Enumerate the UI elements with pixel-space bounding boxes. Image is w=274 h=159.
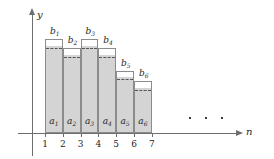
series-bar-diagram: y n a1b1a2b2a3b3a4b4a5b5a6b6 1234567 [0,0,274,159]
a-label-5: a5 [117,116,133,126]
y-axis-line [32,14,33,156]
bar-5: a5 [116,71,134,133]
ellipsis-dot-2 [205,117,207,119]
y-axis-label: y [37,9,43,20]
ellipsis-dot-3 [221,117,223,119]
tick-mark-7 [152,133,153,137]
bar-divider-4 [99,57,115,58]
tick-mark-6 [134,133,135,137]
tick-label-2: 2 [57,139,69,149]
tick-mark-2 [63,133,64,137]
ellipsis-dot-1 [189,117,191,119]
a-label-6: a6 [135,116,151,126]
bar-2: a2 [63,48,81,133]
tick-label-4: 4 [92,139,104,149]
tick-mark-5 [116,133,117,137]
bar-3: a3 [81,39,99,133]
b-label-6: b6 [139,68,149,78]
tick-label-5: 5 [110,139,122,149]
tick-mark-1 [45,133,46,137]
tick-label-7: 7 [146,139,158,149]
bar-6: a6 [134,81,152,133]
bar-divider-5 [117,79,133,80]
bar-divider-3 [82,48,98,49]
a-label-2: a2 [64,116,80,126]
tick-label-3: 3 [75,139,87,149]
bar-4: a4 [98,48,116,133]
bar-1: a1 [45,39,63,133]
y-axis-arrow-icon [29,8,35,15]
tick-label-6: 6 [128,139,140,149]
tick-mark-4 [98,133,99,137]
bar-divider-6 [135,90,151,91]
b-label-4: b4 [103,35,113,45]
b-label-1: b1 [50,26,60,36]
a-label-4: a4 [99,116,115,126]
bar-divider-2 [64,57,80,58]
x-axis-arrow-icon [236,130,243,136]
b-label-2: b2 [68,35,78,45]
bar-divider-1 [46,48,62,49]
b-label-3: b3 [86,26,96,36]
a-label-1: a1 [46,116,62,126]
x-axis-line [18,133,238,134]
x-axis-label: n [246,126,252,137]
b-label-5: b5 [121,58,131,68]
tick-label-1: 1 [39,139,51,149]
tick-mark-3 [81,133,82,137]
a-label-3: a3 [82,116,98,126]
